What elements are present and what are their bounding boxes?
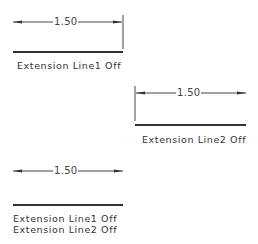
arrowhead-right-icon: [113, 21, 122, 24]
dimension-value-2: 1.50: [176, 87, 201, 98]
diagram-3-label-1: Extension Line1 Off: [13, 213, 117, 224]
dimension-value-1: 1.50: [53, 16, 78, 27]
arrowhead-right-icon: [114, 170, 123, 173]
dimension-drawing-canvas: [0, 0, 258, 244]
diagram-1-label: Extension Line1 Off: [17, 60, 121, 71]
arrowhead-left-icon: [13, 170, 22, 173]
arrowhead-left-icon: [13, 21, 22, 24]
arrowhead-left-icon: [136, 92, 145, 95]
diagram-3-label-2: Extension Line2 Off: [13, 224, 117, 235]
diagram-2-label: Extension Line2 Off: [142, 134, 246, 145]
dimension-value-3: 1.50: [53, 165, 78, 176]
arrowhead-right-icon: [237, 92, 246, 95]
